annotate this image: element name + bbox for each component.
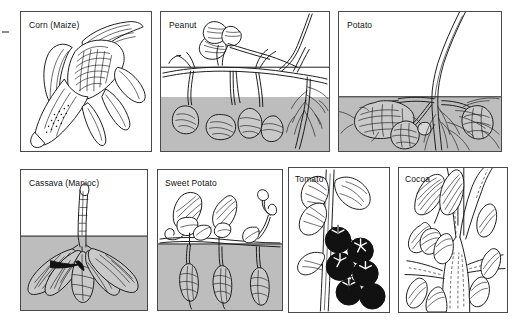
corn-illustration [21,12,151,151]
panel-label-cocoa: Cocoa [405,174,430,184]
panel-tomato: Tomato [288,167,390,313]
cocoa-illustration [399,168,507,312]
crop-illustration-figure: Corn (Maize) [0,0,520,327]
cassava-illustration [21,170,147,310]
panel-potato: Potato [338,11,502,152]
tomato-illustration [289,168,389,312]
panel-peanut: Peanut [160,11,330,152]
panel-cassava: Cassava (Manioc) [20,169,148,311]
page-edge-tick-mark [2,31,9,33]
panel-label-cassava: Cassava (Manioc) [29,178,99,188]
panel-cocoa: Cocoa [398,167,508,313]
panel-sweet-potato: Sweet Potato [157,169,283,311]
panel-corn: Corn (Maize) [20,11,152,152]
panel-label-tomato: Tomato [295,174,323,184]
sweet-potato-illustration [158,170,282,310]
panel-label-potato: Potato [347,20,372,30]
peanut-illustration [161,12,329,151]
panel-label-sweet-potato: Sweet Potato [165,178,217,188]
panel-label-corn: Corn (Maize) [29,20,79,30]
panel-label-peanut: Peanut [169,20,197,30]
potato-illustration [339,12,501,151]
